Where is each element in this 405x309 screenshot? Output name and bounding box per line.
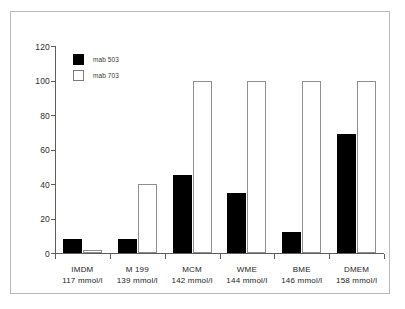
y-tick-40: 40: [55, 184, 60, 185]
chart-frame: mab 503 mab 703 0 20 40: [10, 11, 390, 294]
bar-mcm-mab-703: [193, 81, 212, 254]
bar-bme-mab-703: [302, 81, 321, 254]
y-tick-label-20: 20: [40, 214, 50, 224]
x-tick-3: [274, 254, 275, 259]
y-tick-20: 20: [55, 219, 60, 220]
y-tick-120: 120: [55, 46, 60, 47]
bar-wme-mab-503: [227, 193, 246, 253]
y-tick-80: 80: [55, 115, 60, 116]
x-tick-0: [110, 254, 111, 259]
y-tick-100: 100: [55, 81, 60, 82]
y-tick-60: 60: [55, 150, 60, 151]
bar-m-199-mab-703: [138, 184, 157, 253]
y-tick-label-40: 40: [40, 180, 50, 190]
y-tick-label-120: 120: [35, 42, 50, 52]
y-tick-label-0: 0: [45, 249, 50, 259]
x-tick-1: [165, 254, 166, 259]
y-tick-label-100: 100: [35, 76, 50, 86]
bar-wme-mab-703: [247, 81, 266, 254]
bar-dmem-mab-703: [357, 81, 376, 254]
bar-imdm-mab-703: [83, 250, 102, 253]
x-tick-origin: [55, 254, 56, 259]
bar-bme-mab-503: [282, 232, 301, 253]
plot-area: 0 20 40 60 80 100: [55, 46, 384, 254]
chart-figure: mab 503 mab 703 0 20 40: [0, 0, 405, 309]
bar-mcm-mab-503: [173, 175, 192, 253]
x-category-concentration: 158 mmol/l: [319, 275, 394, 286]
bar-m-199-mab-503: [118, 239, 137, 253]
bar-imdm-mab-503: [63, 239, 82, 253]
x-tick-2: [220, 254, 221, 259]
x-tick-4: [329, 254, 330, 259]
x-category-label-dmem: DMEM158 mmol/l: [319, 264, 394, 286]
y-tick-label-80: 80: [40, 111, 50, 121]
x-category-name: DMEM: [319, 264, 394, 275]
x-tick-5: [384, 254, 385, 259]
y-tick-label-60: 60: [40, 145, 50, 155]
bar-dmem-mab-503: [337, 134, 356, 253]
